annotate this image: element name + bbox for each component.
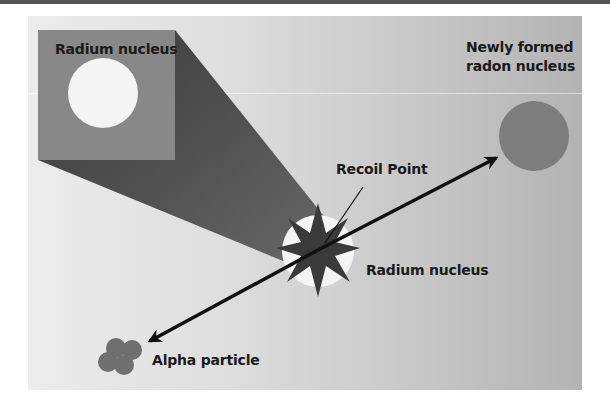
recoil-point-label: Recoil Point xyxy=(336,160,428,178)
alpha-arrow xyxy=(150,250,318,341)
inset-title: Radium nucleus xyxy=(55,40,178,58)
radon-nucleus xyxy=(499,101,569,171)
alpha-particle-label: Alpha particle xyxy=(152,351,260,369)
center-nucleus-label: Radium nucleus xyxy=(366,261,489,279)
radon-label-line2: radon nucleus xyxy=(466,57,575,75)
alpha-particle-icon xyxy=(98,338,142,375)
inset-radium-nucleus xyxy=(68,58,138,128)
radon-label-line1: Newly formed xyxy=(466,38,573,56)
